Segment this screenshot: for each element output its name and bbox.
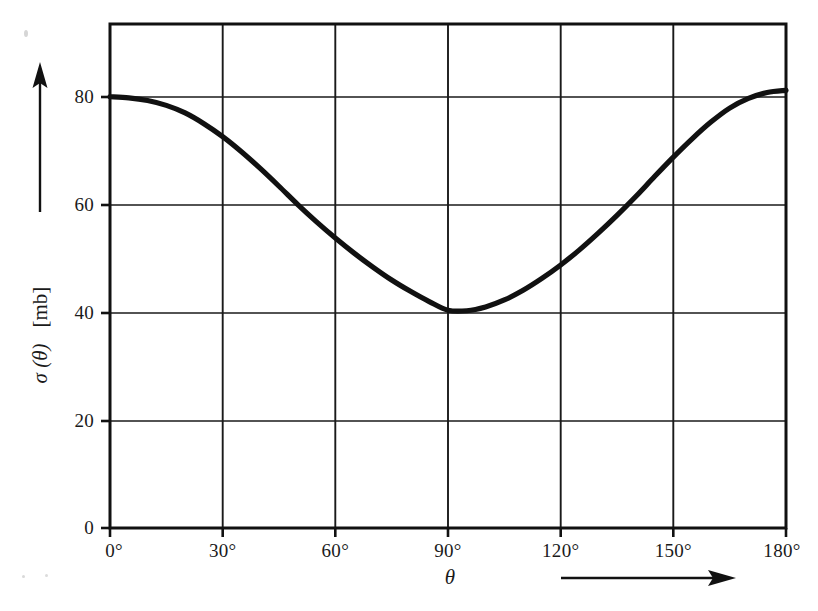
xtick-label-180: 180° bbox=[763, 540, 800, 562]
scan-speck bbox=[24, 30, 28, 37]
cross-section-vs-angle-chart bbox=[0, 0, 818, 611]
xtick-label-150: 150° bbox=[655, 540, 692, 562]
xtick-label-30: 30° bbox=[209, 540, 237, 562]
xtick-label-120: 120° bbox=[542, 540, 579, 562]
ytick-label-80: 80 bbox=[58, 86, 94, 108]
xtick-label-0: 0° bbox=[105, 540, 123, 562]
y-axis-title-symbol: σ (θ) bbox=[28, 343, 52, 383]
ytick-label-0: 0 bbox=[58, 517, 94, 539]
figure-container: 0 20 40 60 80 0° 30° 60° 90° 120° 150° 1… bbox=[0, 0, 818, 611]
xtick-label-60: 60° bbox=[322, 540, 350, 562]
x-axis-arrow-icon bbox=[561, 570, 736, 586]
y-axis-arrow-icon bbox=[33, 62, 48, 212]
scan-speck bbox=[22, 575, 25, 578]
ytick-label-60: 60 bbox=[58, 194, 94, 216]
xtick-label-90: 90° bbox=[434, 540, 462, 562]
scan-speck bbox=[45, 574, 48, 577]
y-axis-title: σ (θ)[mb] bbox=[10, 240, 70, 430]
y-axis-title-unit: [mb] bbox=[28, 287, 52, 344]
x-axis-title: θ bbox=[445, 565, 455, 590]
